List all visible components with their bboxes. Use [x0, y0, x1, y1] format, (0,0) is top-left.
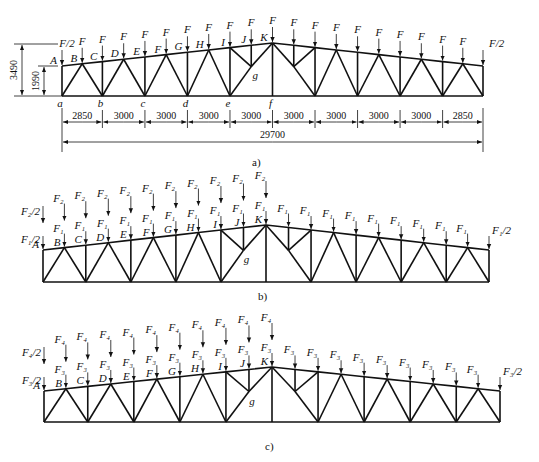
node-label-C: C: [90, 50, 98, 62]
node-label-G: G: [174, 40, 182, 52]
truss-member: [111, 384, 134, 422]
load-label: F: [417, 30, 425, 42]
truss-member: [401, 243, 424, 282]
node-label-c: c: [140, 97, 145, 109]
load-label: F: [162, 26, 170, 38]
truss-member: [336, 50, 357, 96]
truss-member: [400, 59, 421, 96]
node-label-a: a: [57, 97, 63, 109]
load-label-full: F₃: [122, 356, 134, 368]
node-label-g: g: [252, 69, 258, 81]
truss-member: [358, 55, 379, 96]
node-label-f: f: [269, 97, 274, 109]
truss-member: [166, 55, 187, 96]
load-label: F: [141, 28, 149, 40]
load-label-full: F₁: [164, 209, 176, 221]
load-label-full: F₁: [141, 212, 153, 224]
dim-span: 3000: [241, 110, 261, 121]
node-label-E: E: [119, 228, 127, 240]
load-label: F: [396, 28, 404, 40]
load-label-full: F₁: [366, 212, 378, 224]
load-label-full: F₁: [74, 219, 86, 231]
node-label-B: B: [70, 52, 77, 64]
load-label-half: F₄: [168, 321, 180, 333]
load-label-full: F₃: [444, 360, 456, 372]
load-label: F: [98, 33, 106, 45]
load-label-full: F₃: [75, 360, 87, 372]
node-label-E: E: [122, 370, 130, 382]
load-label-full: F₃: [237, 343, 249, 355]
load-label-full: F₁: [209, 204, 221, 216]
node-label-D: D: [110, 47, 119, 59]
load-label-full-end: F₃/2: [502, 365, 523, 377]
load-label: F: [458, 35, 466, 47]
node-label-A: A: [32, 379, 40, 391]
node-label-F: F: [153, 43, 161, 55]
truss-member: [153, 238, 176, 282]
truss-member: [272, 367, 295, 392]
load-label-half: F₂: [52, 192, 64, 204]
node-label-e: e: [226, 97, 231, 109]
node-label-F: F: [142, 226, 150, 238]
load-label-full: F₃: [214, 346, 226, 358]
truss-member: [289, 250, 312, 282]
load-label-full-end: F₁/2: [491, 224, 512, 236]
dim-span: 3000: [369, 110, 389, 121]
load-label: F: [311, 19, 319, 31]
load-label-half: F₂: [209, 174, 221, 186]
node-label-B: B: [55, 377, 62, 389]
node-label-G: G: [164, 223, 172, 235]
truss-member: [387, 379, 410, 422]
load-label-half: F₂: [74, 189, 86, 201]
node-label-D: D: [98, 372, 107, 384]
load-label-full: F₁: [299, 204, 311, 216]
load-label-full: F₃: [466, 363, 478, 375]
load-label: F: [78, 35, 86, 47]
load-label: F: [204, 21, 212, 33]
truss-member: [424, 243, 447, 282]
truss-member: [187, 50, 208, 96]
load-label-half-end: F₄/2: [21, 346, 42, 358]
load-label: F: [183, 23, 191, 35]
truss-figure: F/2FFFFFFFFFFFFFFFFFFFF/2ABCDEFGHIJKgabc…: [0, 0, 539, 462]
truss-member: [226, 372, 249, 392]
truss-member: [62, 64, 82, 96]
load-label-full: F₃: [398, 356, 410, 368]
load-label-full: F₁: [344, 209, 356, 221]
truss-member: [209, 50, 230, 96]
load-label-full: F₃: [375, 353, 387, 365]
load-label-half: F₄: [99, 328, 111, 340]
truss-member: [230, 48, 251, 67]
truss-member: [157, 379, 180, 422]
truss-diagram-a: F/2FFFFFFFFFFFFFFFFFFFF/2ABCDEFGHIJKgabc…: [8, 14, 505, 152]
load-label-full: F₃: [421, 358, 433, 370]
load-label-full: F₁: [231, 202, 243, 214]
load-label: F: [247, 16, 255, 28]
load-label-full: F₁: [455, 222, 467, 234]
node-label-b: b: [98, 97, 104, 109]
truss-member: [364, 379, 387, 422]
truss-member: [66, 389, 88, 422]
load-label-full: F₁: [434, 219, 446, 231]
truss-member: [294, 48, 315, 67]
load-label-full: F₁: [119, 214, 131, 226]
node-label-K: K: [259, 31, 268, 43]
node-label-H: H: [190, 362, 200, 374]
load-label-full: F₃: [329, 348, 341, 360]
node-label-D: D: [95, 231, 104, 243]
node-label-J: J: [235, 216, 241, 228]
truss-member: [410, 384, 433, 422]
load-label-full: F₃: [306, 346, 318, 358]
load-label-half: F₄: [145, 323, 157, 335]
load-label-half: F₂: [141, 182, 153, 194]
truss-member: [443, 64, 463, 96]
node-label-K: K: [260, 355, 269, 367]
load-label-full: F₁: [276, 202, 288, 214]
truss-member: [295, 392, 318, 422]
load-label: F: [289, 16, 297, 28]
node-label-C: C: [76, 374, 84, 386]
truss-member: [356, 238, 379, 282]
truss-member: [249, 367, 272, 392]
load-label-half: F₄: [191, 318, 203, 330]
truss-member: [108, 243, 131, 282]
